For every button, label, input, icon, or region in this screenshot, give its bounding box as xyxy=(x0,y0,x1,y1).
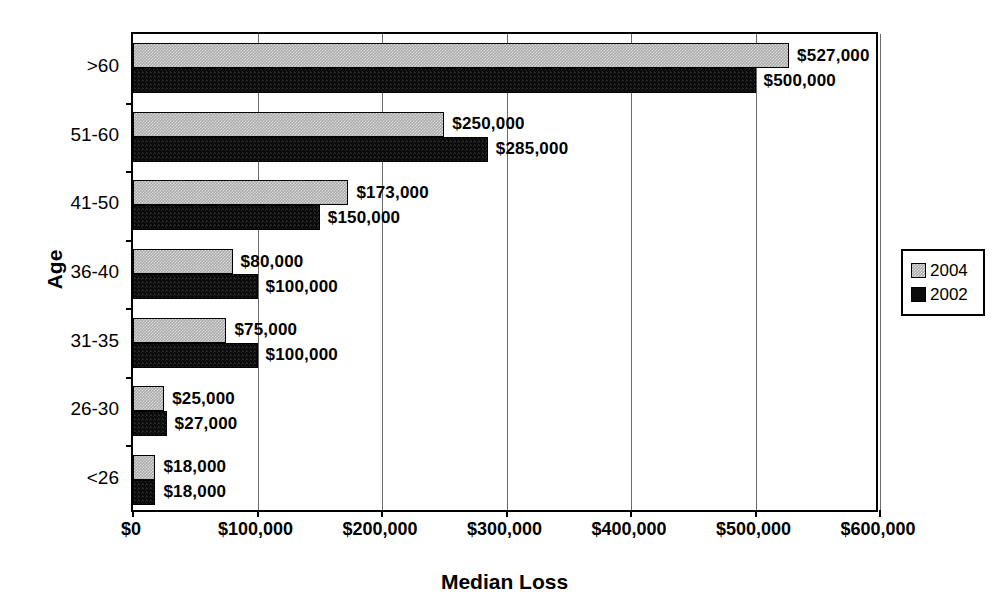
bar-value-label: $100,000 xyxy=(266,345,339,364)
bar-2004->60 xyxy=(133,43,789,68)
y-axis-tick-labels: >6051-6041-5036-4031-3526-30<26 xyxy=(0,32,119,512)
y-axis-tick xyxy=(126,445,133,447)
y-axis-tick-label: >60 xyxy=(87,55,119,76)
gridline xyxy=(507,34,508,510)
bar-2002-51-60 xyxy=(133,137,488,162)
legend-item-2004[interactable]: 2004 xyxy=(911,258,975,282)
x-axis-tick xyxy=(132,510,134,517)
y-axis-tick xyxy=(126,103,133,105)
y-axis-tick-label: 36-40 xyxy=(70,261,119,282)
y-axis-tick-label: 51-60 xyxy=(70,124,119,145)
bar-value-label: $173,000 xyxy=(356,183,429,202)
bar-2002-36-40 xyxy=(133,274,258,299)
cut-off-title-remnant xyxy=(0,0,997,10)
x-axis-tick-label: $200,000 xyxy=(342,519,417,539)
gridline xyxy=(880,34,881,510)
bar-2004-31-35 xyxy=(133,318,226,343)
bar-value-label: $250,000 xyxy=(452,114,525,133)
y-axis-tick xyxy=(126,171,133,173)
y-axis-tick xyxy=(126,240,133,242)
x-axis-tick-label: $400,000 xyxy=(591,519,666,539)
bar-value-label: $18,000 xyxy=(163,457,226,476)
bar-2002-26-30 xyxy=(133,411,167,436)
y-axis-tick-label: 41-50 xyxy=(70,192,119,213)
bar-value-label: $527,000 xyxy=(797,46,870,65)
y-axis-tick-label: 26-30 xyxy=(70,398,119,419)
bar-value-label: $100,000 xyxy=(266,277,339,296)
bar-value-label: $500,000 xyxy=(764,71,837,90)
bar-2002-41-50 xyxy=(133,205,320,230)
gridline xyxy=(631,34,632,510)
y-axis-tick xyxy=(126,308,133,310)
legend-swatch-icon xyxy=(911,287,926,302)
bar-value-label: $18,000 xyxy=(163,482,226,501)
bar-2004-26-30 xyxy=(133,386,164,411)
x-axis-tick-label: $0 xyxy=(121,519,141,539)
bar-2004-36-40 xyxy=(133,249,233,274)
bar-2002-<26 xyxy=(133,480,155,505)
x-axis-tick xyxy=(257,510,259,517)
x-axis-tick-label: $500,000 xyxy=(716,519,791,539)
x-axis-tick-label: $100,000 xyxy=(218,519,293,539)
bar-value-label: $150,000 xyxy=(328,208,401,227)
bar-2004-<26 xyxy=(133,455,155,480)
y-axis-tick-label: 31-35 xyxy=(70,330,119,351)
bar-2002->60 xyxy=(133,68,756,93)
chart-page: Age >6051-6041-5036-4031-3526-30<26 $527… xyxy=(0,0,997,614)
y-axis-tick xyxy=(126,377,133,379)
bar-value-label: $25,000 xyxy=(172,389,235,408)
bar-value-label: $27,000 xyxy=(175,414,238,433)
x-axis-tick-label: $300,000 xyxy=(467,519,542,539)
plot-area: $527,000$500,000$250,000$285,000$173,000… xyxy=(131,32,878,512)
x-axis-tick xyxy=(755,510,757,517)
gridline xyxy=(258,34,259,510)
x-axis-tick xyxy=(381,510,383,517)
x-axis-tick-label: $600,000 xyxy=(840,519,915,539)
bar-2002-31-35 xyxy=(133,343,258,368)
legend-swatch-icon xyxy=(911,263,926,278)
legend-item-2002[interactable]: 2002 xyxy=(911,282,975,306)
y-axis-tick-label: <26 xyxy=(87,467,119,488)
bar-value-label: $80,000 xyxy=(241,252,304,271)
x-axis-title: Median Loss xyxy=(131,570,878,593)
gridline xyxy=(382,34,383,510)
gridline xyxy=(756,34,757,510)
x-axis-tick xyxy=(506,510,508,517)
legend-item-label: 2002 xyxy=(930,285,968,304)
bar-value-label: $75,000 xyxy=(234,320,297,339)
bar-2004-41-50 xyxy=(133,180,348,205)
x-axis-tick xyxy=(630,510,632,517)
x-axis-tick xyxy=(879,510,881,517)
bar-2004-51-60 xyxy=(133,112,444,137)
bar-value-label: $285,000 xyxy=(496,139,569,158)
legend-item-label: 2004 xyxy=(930,261,968,280)
legend: 20042002 xyxy=(901,249,985,316)
